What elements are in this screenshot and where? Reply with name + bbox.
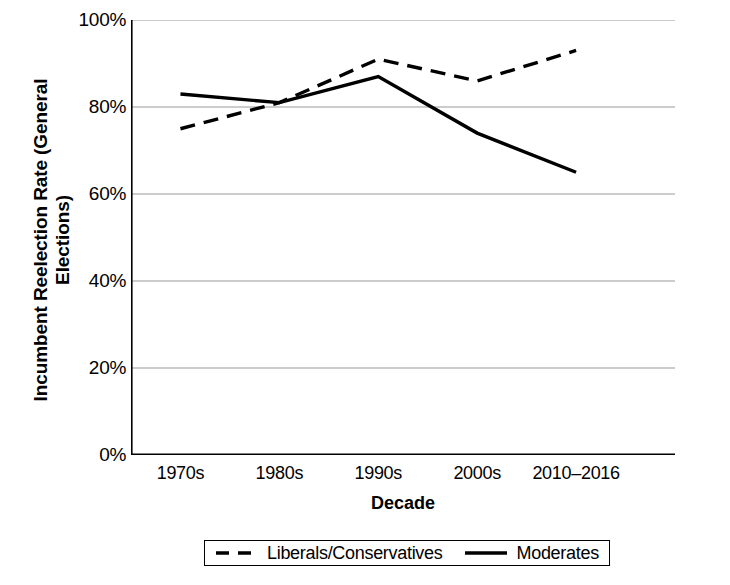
legend-item-2: Moderates: [464, 543, 598, 563]
legend-item-1: Liberals/Conservatives: [215, 543, 442, 563]
y-axis-tick-label: 20%: [64, 358, 126, 377]
legend-item-label: Moderates: [516, 543, 598, 563]
legend-solid-line-icon: [464, 547, 508, 559]
line-chart: Incumbent Reelection Rate (General Elect…: [0, 0, 730, 585]
chart-legend: Liberals/ConservativesModerates: [204, 540, 610, 566]
legend-dashed-line-icon: [215, 547, 259, 559]
y-axis-tick-label: 40%: [64, 271, 126, 290]
plot-area: [131, 20, 675, 455]
y-axis-tick-label: 80%: [64, 97, 126, 116]
y-axis-tick-label: 100%: [64, 10, 126, 29]
legend-item-label: Liberals/Conservatives: [267, 543, 442, 563]
x-axis-tick-label: 2010–2016: [506, 462, 646, 484]
series-line-1: [180, 50, 576, 128]
plot-canvas: [131, 20, 675, 455]
x-axis-title: Decade: [131, 492, 675, 514]
x-axis-tick-labels: 1970s1980s1990s2000s2010–2016: [131, 462, 675, 488]
y-axis-tick-labels: 100%80%60%40%20%0%: [60, 0, 126, 585]
y-axis-title-line-1: Incumbent Reelection Rate (General: [30, 20, 52, 460]
y-axis-tick-label: 60%: [64, 184, 126, 203]
series-line-2: [180, 77, 576, 173]
